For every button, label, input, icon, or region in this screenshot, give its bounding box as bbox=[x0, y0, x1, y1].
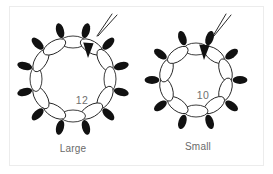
small-ring-caption: Small bbox=[185, 141, 211, 152]
ring-solid-subunit bbox=[16, 86, 33, 97]
figure-root: 12 Large 10 Small bbox=[0, 0, 273, 174]
ring-solid-subunit bbox=[223, 98, 240, 113]
ring-solid-subunit bbox=[54, 119, 65, 136]
ring-solid-subunit bbox=[80, 119, 91, 136]
ring-symmetry-diagram: 12 Large 10 Small bbox=[0, 0, 273, 174]
ring-solid-subunit bbox=[80, 22, 91, 39]
leader-line-stroke-2 bbox=[214, 15, 231, 36]
ring-solid-subunit bbox=[16, 60, 33, 71]
ring-solid-subunit bbox=[223, 47, 240, 62]
diagram-small-ring: 10 Small bbox=[145, 14, 248, 152]
small-ring-count-label: 10 bbox=[197, 89, 209, 101]
large-ring-caption: Large bbox=[60, 143, 87, 154]
ring-solid-subunit bbox=[152, 47, 169, 62]
small-ring-leader-line bbox=[213, 14, 231, 36]
leader-line-stroke-1 bbox=[97, 14, 112, 36]
ring-solid-subunit bbox=[113, 60, 130, 71]
ring-solid-subunit bbox=[113, 86, 130, 97]
ring-solid-subunit bbox=[176, 114, 188, 130]
large-ring-count-label: 12 bbox=[76, 94, 88, 106]
ring-solid-subunit bbox=[233, 76, 248, 84]
ring-solid-subunit bbox=[176, 30, 188, 46]
ring-solid-subunit bbox=[204, 114, 216, 130]
ring-solid-subunit bbox=[54, 22, 65, 39]
small-ring-open-ellipses bbox=[157, 43, 235, 117]
leader-line-stroke-2 bbox=[98, 15, 117, 36]
ring-solid-subunit bbox=[152, 98, 169, 113]
diagram-large-ring: 12 Large bbox=[16, 14, 129, 154]
large-ring-leader-line bbox=[97, 14, 117, 36]
ring-solid-subunit bbox=[145, 76, 160, 84]
ring-solid-subunit bbox=[204, 30, 216, 46]
leader-line-stroke-1 bbox=[213, 14, 226, 36]
